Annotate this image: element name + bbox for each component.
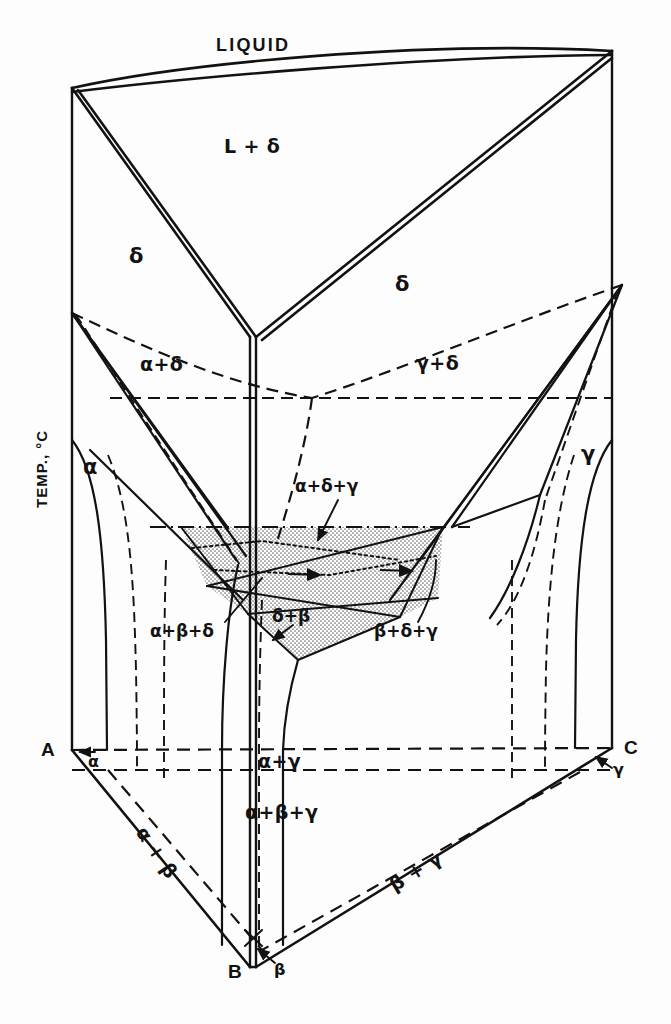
phase-diagram-figure: LIQUID L + δ δ δ α+δ γ+δ α γ α+δ+γ α+β+δ… (0, 0, 671, 1024)
liquidus-surface (72, 48, 612, 340)
region-label-gamma-right: γ (581, 444, 595, 465)
region-label-alpha-left: α (83, 457, 97, 478)
region-label-alpha-base: α (88, 754, 99, 770)
region-label-gamma-plus-delta: γ+δ (416, 354, 459, 373)
region-label-liquid: LIQUID (216, 36, 290, 54)
region-label-alpha-delta-gamma: α+δ+γ (295, 478, 358, 495)
y-axis-label-temperature: TEMP., °C (34, 430, 49, 508)
region-label-alpha-plus-delta: α+δ (140, 355, 183, 374)
region-label-delta-left: δ (129, 246, 143, 267)
corner-label-c: C (624, 738, 638, 757)
region-label-delta-right: δ (395, 274, 409, 295)
region-label-delta-plus-beta: δ+β (272, 608, 310, 625)
b-edge-dashed-boundaries (259, 600, 262, 950)
region-label-beta-base: β (274, 962, 285, 978)
region-label-gamma-base: γ (613, 762, 624, 778)
bc-face-dashed-boundaries (497, 290, 618, 782)
ternary-phase-diagram-svg (0, 0, 671, 1024)
region-label-alpha-plus-gamma: α+γ (258, 752, 301, 771)
region-label-alpha-beta-gamma: α+β+γ (245, 803, 318, 822)
corner-label-a: A (41, 740, 55, 759)
hidden-boundary-dashed-lines (72, 285, 622, 545)
region-label-liquid-plus-delta: L + δ (224, 137, 280, 156)
region-label-alpha-beta-delta: α+β+δ (150, 623, 214, 640)
region-label-beta-delta-gamma: β+δ+γ (374, 623, 438, 640)
corner-label-b: B (228, 962, 242, 981)
